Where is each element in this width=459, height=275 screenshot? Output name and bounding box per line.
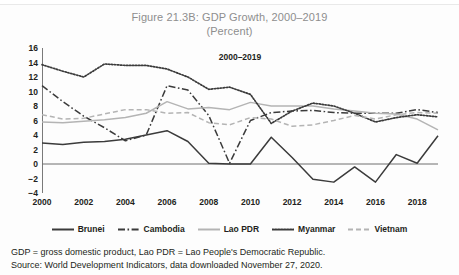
legend-label: Lao PDR [224,224,259,234]
note-definitions: GDP = gross domestic product, Lao PDR = … [11,246,451,259]
legend-item-vietnam[interactable]: Vietnam [348,224,407,234]
y-axis-tick-16: 16 [29,44,38,52]
series-line-brunei [42,131,438,182]
x-axis-tick-2004: 2004 [116,197,135,207]
legend-label: Vietnam [374,224,407,234]
y-axis-tick-14: 14 [29,59,38,67]
figure-title-line1: Figure 21.3B: GDP Growth, 2000–2019 [132,11,328,23]
x-axis-tick-2002: 2002 [74,197,93,207]
x-axis-tick-2000: 2000 [33,197,52,207]
note-source: Source: World Development Indicators, da… [11,259,451,272]
figure-title-line2: (Percent) [0,24,459,38]
legend-swatch-myanmar [272,225,294,234]
x-axis-tick-2012: 2012 [283,197,302,207]
legend-swatch-lao-pdr [198,225,220,234]
legend-label: Cambodia [144,224,185,234]
figure-title: Figure 21.3B: GDP Growth, 2000–2019 (Per… [0,10,459,38]
figure-container: Figure 21.3B: GDP Growth, 2000–2019 (Per… [0,0,459,275]
legend-item-brunei[interactable]: Brunei [52,224,105,234]
legend-item-myanmar[interactable]: Myanmar [272,224,335,234]
chart-legend: BruneiCambodiaLao PDRMyanmarVietnam [0,224,459,234]
x-axis-tick-2018: 2018 [408,197,427,207]
y-axis-tick-0: 0 [33,160,38,168]
y-axis-tick-4: 4 [33,131,38,139]
legend-swatch-cambodia [118,225,140,234]
series-line-vietnam [42,110,438,127]
y-axis-tick-neg4: −4 [28,189,38,197]
legend-item-cambodia[interactable]: Cambodia [118,224,185,234]
legend-item-lao-pdr[interactable]: Lao PDR [198,224,259,234]
y-axis-tick-12: 12 [29,73,38,81]
figure-notes: GDP = gross domestic product, Lao PDR = … [11,246,451,271]
y-axis-tick-2: 2 [33,146,38,154]
page-top-rule [0,0,459,5]
legend-swatch-vietnam [348,225,370,234]
x-axis-tick-2006: 2006 [158,197,177,207]
y-axis-tick-neg2: −2 [28,175,38,183]
x-axis-tick-2008: 2008 [199,197,218,207]
y-axis-tick-8: 8 [33,102,38,110]
y-axis-tick-10: 10 [29,88,38,96]
legend-label: Brunei [78,224,105,234]
series-line-cambodia [42,86,438,164]
x-axis-tick-2016: 2016 [366,197,385,207]
chart-lines [42,48,438,193]
plot-area: 2000–2019 1614121086420−2−4 200020022004… [42,48,438,193]
legend-label: Myanmar [298,224,335,234]
legend-swatch-brunei [52,225,74,234]
x-axis-tick-2010: 2010 [241,197,260,207]
y-axis-tick-6: 6 [33,117,38,125]
x-axis-tick-2014: 2014 [324,197,343,207]
